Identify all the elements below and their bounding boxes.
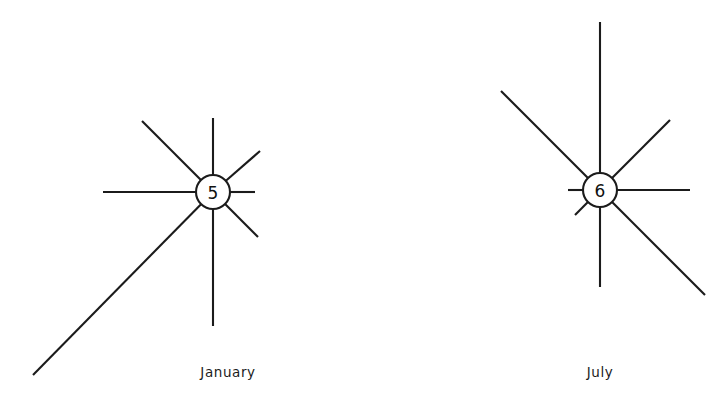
wind-rose-ray-ne <box>611 120 670 179</box>
wind-rose-ray-sw <box>33 203 202 375</box>
wind-rose-ray-sw <box>575 201 589 215</box>
wind-rose-ray-se <box>224 203 258 237</box>
wind-rose-figure: 5 6 January July <box>0 0 726 404</box>
wind-rose-ray-nw <box>501 91 589 179</box>
wind-rose-panel-july: 6 <box>501 22 705 295</box>
wind-rose-panel-january: 5 <box>33 118 260 375</box>
wind-rose-hub-value: 6 <box>595 181 606 201</box>
wind-rose-ray-nw <box>142 121 202 181</box>
panel-caption-july: July <box>587 364 614 380</box>
panel-caption-january: January <box>200 364 255 380</box>
wind-rose-canvas: 5 6 <box>0 0 726 404</box>
wind-rose-ray-se <box>611 201 705 295</box>
wind-rose-hub-value: 5 <box>208 183 219 203</box>
wind-rose-ray-ne <box>225 151 260 181</box>
